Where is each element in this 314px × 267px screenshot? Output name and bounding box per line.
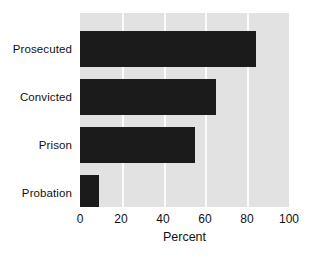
bar-convicted bbox=[80, 79, 216, 115]
x-axis: 0 20 40 60 80 100 bbox=[0, 208, 314, 232]
bar-chart: Prosecuted Convicted Prison Probation 0 … bbox=[0, 0, 314, 267]
category-label-prosecuted: Prosecuted bbox=[0, 43, 72, 55]
bar-prison bbox=[80, 127, 195, 163]
bar-prosecuted bbox=[80, 31, 256, 67]
xtick-label-80: 80 bbox=[232, 212, 262, 226]
category-label-prison: Prison bbox=[0, 139, 72, 151]
category-axis: Prosecuted Convicted Prison Probation bbox=[0, 13, 76, 207]
xtick-label-40: 40 bbox=[148, 212, 178, 226]
x-axis-title: Percent bbox=[80, 230, 289, 244]
plot-area bbox=[80, 13, 289, 207]
category-label-convicted: Convicted bbox=[0, 91, 72, 103]
xtick-label-60: 60 bbox=[190, 212, 220, 226]
category-label-probation: Probation bbox=[0, 187, 72, 199]
xtick-label-100: 100 bbox=[274, 212, 304, 226]
xtick-label-20: 20 bbox=[106, 212, 136, 226]
xtick-label-0: 0 bbox=[65, 212, 95, 226]
bar-probation bbox=[80, 175, 99, 207]
